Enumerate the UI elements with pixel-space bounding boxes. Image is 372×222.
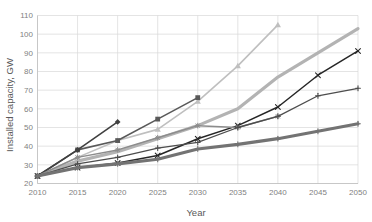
data-point-marker	[75, 155, 80, 160]
y-tick-label: 100	[20, 30, 34, 39]
x-tick-labels: 201020152020202520302035204020452050	[29, 188, 368, 197]
data-point-marker	[115, 138, 120, 143]
x-axis-title: Year	[186, 207, 205, 218]
data-point-marker	[155, 135, 160, 140]
data-point-marker	[115, 148, 120, 153]
x-tick-label: 2025	[149, 188, 167, 197]
y-tick-label: 90	[24, 49, 33, 58]
y-axis-title: Installed capacity, GW	[4, 58, 15, 152]
x-tick-label: 2050	[349, 188, 367, 197]
data-point-marker	[155, 117, 160, 122]
x-tick-label: 2020	[109, 188, 127, 197]
x-tick-label: 2045	[309, 188, 327, 197]
y-tick-label: 70	[24, 86, 33, 95]
x-tick-label: 2030	[189, 188, 207, 197]
x-tick-label: 2010	[29, 188, 47, 197]
line-chart: 2030405060708090100110 20102015202020252…	[0, 0, 372, 222]
x-tick-label: 2035	[229, 188, 247, 197]
data-point-marker	[195, 123, 200, 128]
x-tick-label: 2015	[69, 188, 87, 197]
x-tick-label: 2040	[269, 188, 287, 197]
y-tick-label: 110	[20, 11, 33, 20]
chart-container: 2030405060708090100110 20102015202020252…	[0, 0, 372, 222]
y-tick-label: 60	[24, 105, 33, 114]
y-tick-label: 40	[24, 142, 33, 151]
y-tick-label: 50	[24, 123, 33, 132]
y-tick-label: 80	[24, 67, 33, 76]
data-point-marker	[195, 95, 200, 100]
y-tick-label: 30	[24, 161, 33, 170]
